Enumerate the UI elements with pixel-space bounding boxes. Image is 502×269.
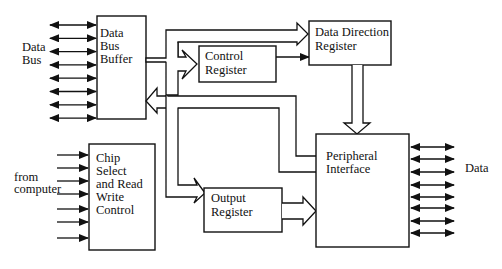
output-to-peripheral-bus [282,197,316,225]
data-bus-buffer-label-3: Buffer [100,52,133,66]
chip-select-label-2: Select [96,164,127,178]
control-register-label-1: Control [205,49,244,63]
peripheral-label-1: Peripheral [326,149,378,163]
computer-control-lines [57,155,88,238]
output-register-label-1: Output [211,191,246,205]
chip-select-label-4: Write [96,190,124,204]
data-bus-lines [50,25,96,118]
control-register-label-2: Register [205,63,247,77]
ddr-to-peripheral-bus [344,65,370,134]
output-register-label-2: Register [211,205,253,219]
data-bus-buffer-label-1: Data [100,26,124,40]
data-bus-label-line1: Data [22,40,46,54]
data-out-label: Data [465,161,489,175]
diagram-canvas: Data Bus Data Bus Buffer Control Registe… [0,0,502,269]
chip-select-label-5: Control [96,203,135,217]
data-bus-label-line2: Bus [22,53,42,67]
from-computer-label-2: computer [14,182,62,196]
bus-to-output-register [166,95,205,203]
peripheral-label-2: Interface [326,162,371,176]
chip-select-label-1: Chip [96,151,120,165]
chip-select-label-3: and Read [96,177,144,191]
peripheral-data-lines [411,147,454,233]
data-bus-buffer-label-2: Bus [100,39,120,53]
ddr-label-1: Data Direction [315,25,390,39]
ddr-label-2: Register [315,39,357,53]
